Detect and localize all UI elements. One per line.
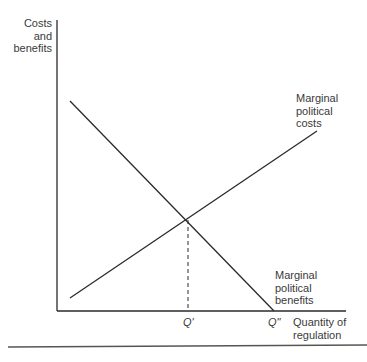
y-label-line-2: and — [0, 30, 52, 43]
y-label-line-3: benefits — [0, 42, 52, 55]
benefits-label-line-1: Marginal — [275, 269, 317, 282]
q-prime-tick-label: Q' — [183, 316, 194, 329]
costs-label-line-1: Marginal — [296, 92, 338, 105]
benefits-label-line-2: political — [275, 282, 317, 295]
x-label-line-2: regulation — [293, 329, 346, 342]
diagram-canvas — [0, 0, 367, 362]
marginal-political-benefits-line — [70, 101, 274, 311]
x-axis-label: Quantity of regulation — [293, 316, 346, 341]
costs-curve-label: Marginal political costs — [296, 92, 338, 130]
x-label-line-1: Quantity of — [293, 316, 346, 329]
y-axis-label: Costs and benefits — [0, 17, 52, 55]
costs-label-line-3: costs — [296, 117, 338, 130]
benefits-label-line-3: benefits — [275, 294, 317, 307]
q-double-prime-tick-label: Q" — [268, 316, 280, 329]
benefits-curve-label: Marginal political benefits — [275, 269, 317, 307]
bottom-rule — [8, 345, 367, 347]
costs-label-line-2: political — [296, 105, 338, 118]
y-label-line-1: Costs — [0, 17, 52, 30]
